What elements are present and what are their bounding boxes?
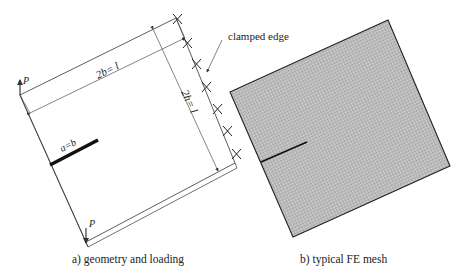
figure-canvas: 2b= l 2h= l a=b P P clamped edge a) geom… bbox=[0, 0, 464, 279]
plate-outline bbox=[20, 18, 235, 242]
caption-a: a) geometry and loading bbox=[72, 253, 184, 266]
load-label-top: P bbox=[22, 75, 29, 86]
mesh-outline bbox=[230, 20, 450, 237]
caption-b: b) typical FE mesh bbox=[300, 253, 387, 266]
fe-mesh: b) typical FE mesh bbox=[230, 20, 450, 266]
load-label-bottom: P bbox=[88, 218, 95, 229]
plate-geometry: 2b= l 2h= l a=b P P clamped edge a) geom… bbox=[20, 14, 289, 266]
clamped-edge-label: clamped edge bbox=[228, 30, 289, 42]
clamped-edge-leader bbox=[207, 40, 222, 72]
